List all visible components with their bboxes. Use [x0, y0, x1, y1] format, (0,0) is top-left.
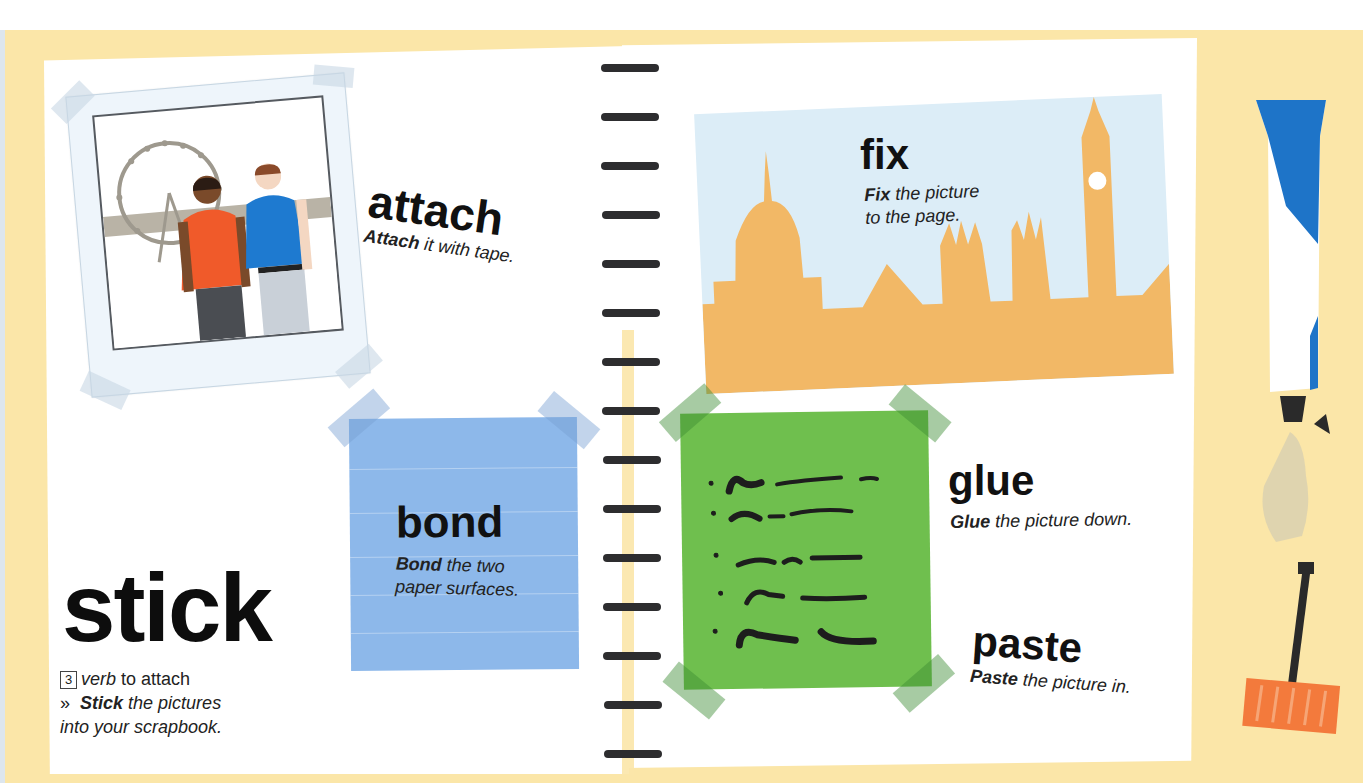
two-men-london-eye-illustration — [94, 97, 341, 348]
headword-glue: glue — [948, 460, 1034, 502]
binder-ring — [602, 211, 660, 219]
glue-spreader-icon — [1236, 560, 1346, 740]
binder-ring — [603, 603, 661, 611]
example-text: paper surfaces. — [395, 576, 520, 599]
example-text: to the page. — [865, 204, 961, 227]
london-skyline-card — [694, 94, 1174, 394]
definition: 3verb to attach » Stick the pictures int… — [60, 668, 222, 739]
example-text: the two — [441, 555, 505, 577]
binder-ring — [603, 456, 661, 464]
sense-number-badge: 3 — [60, 671, 77, 689]
binder-ring — [601, 162, 659, 170]
photo-image — [92, 95, 344, 350]
example-keyword: Stick — [80, 693, 123, 713]
page-edge — [0, 30, 5, 783]
london-skyline-illustration — [694, 94, 1174, 394]
binder-ring — [602, 407, 660, 415]
polaroid-photo — [65, 72, 370, 397]
example-keyword: Bond — [396, 554, 442, 575]
example-bond: Bond the twopaper surfaces. — [395, 553, 520, 601]
binder-ring — [604, 701, 662, 709]
example-keyword: Glue — [950, 511, 990, 532]
headword-bond: bond — [396, 500, 504, 545]
binder-ring — [602, 358, 660, 366]
example-keyword: Fix — [864, 184, 891, 205]
part-of-speech: verb — [81, 669, 116, 689]
binder-ring — [602, 260, 660, 268]
tape-strip — [313, 65, 355, 88]
binder-ring — [601, 113, 659, 121]
scribbled-list-icon — [680, 410, 932, 689]
example-glue: Glue the picture down. — [950, 509, 1132, 533]
headword-fix: fix — [860, 134, 909, 176]
synonym-paste: paste Paste the picture in. — [969, 620, 1134, 698]
example-text: the pictures — [128, 693, 221, 713]
binder-ring — [603, 554, 661, 562]
example-text: the picture down. — [990, 509, 1132, 531]
example-text: into your scrapbook. — [60, 717, 222, 737]
binder-ring — [604, 750, 662, 758]
example-keyword: Paste — [969, 666, 1018, 689]
example-marker-icon: » — [60, 693, 70, 713]
binder-ring — [602, 309, 660, 317]
binder-ring — [603, 652, 661, 660]
binder-ring — [603, 505, 661, 513]
example-text: the picture — [890, 181, 980, 204]
definition-text: to attach — [121, 669, 190, 689]
green-sticky-note — [680, 410, 932, 689]
binder-ring — [601, 64, 659, 72]
main-headword: stick — [62, 560, 271, 656]
blue-sticky-note: bond Bond the twopaper surfaces. — [349, 417, 579, 671]
example-fix: Fix the pictureto the page. — [864, 180, 981, 229]
